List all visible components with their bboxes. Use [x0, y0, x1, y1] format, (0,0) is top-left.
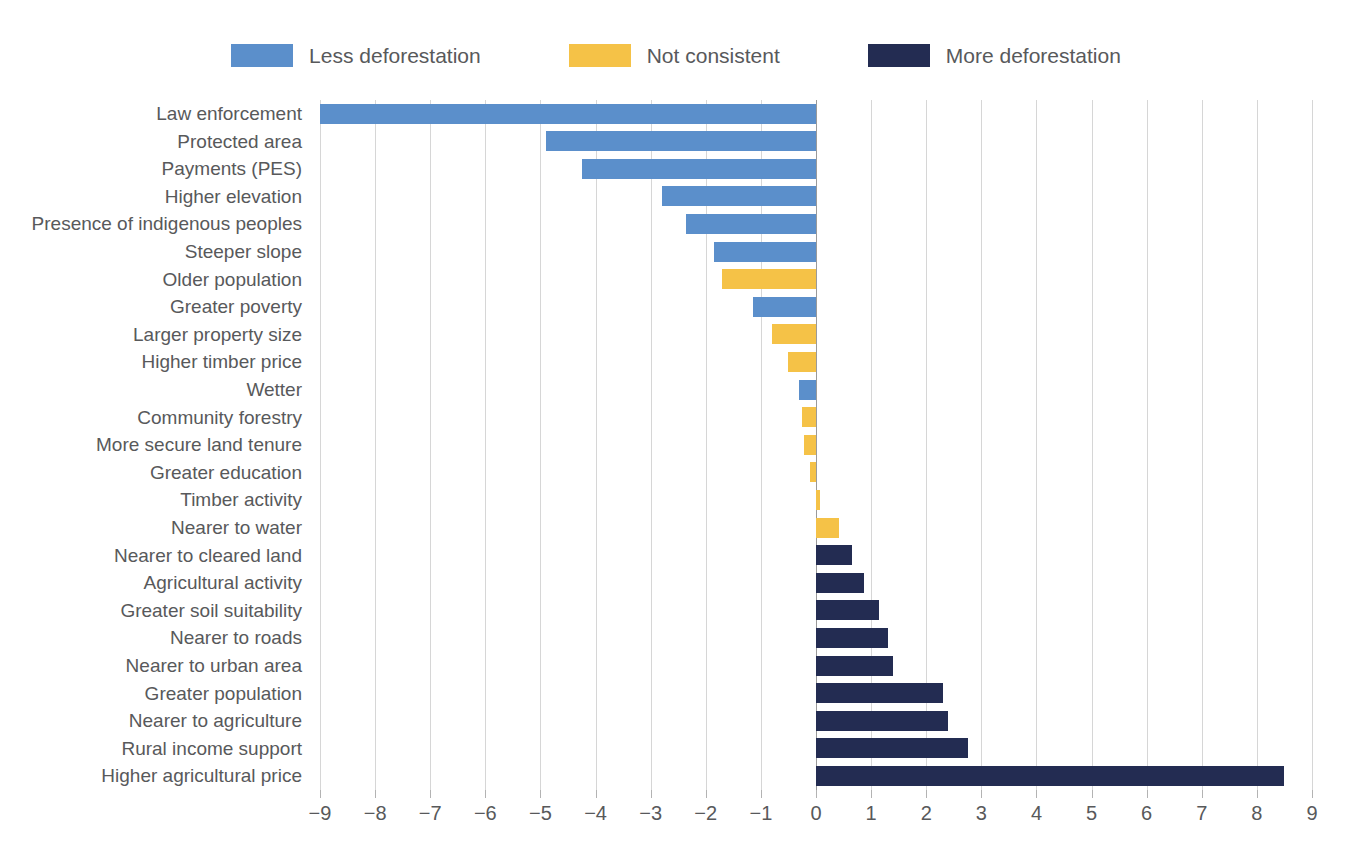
bar[interactable]: [546, 131, 816, 151]
bar-row: [320, 183, 1312, 211]
bar[interactable]: [816, 711, 948, 731]
x-tick-label: 9: [1289, 802, 1335, 825]
y-axis-label: Larger property size: [0, 321, 302, 349]
x-tick-label: −8: [352, 802, 398, 825]
bar-row: [320, 459, 1312, 487]
x-tick-mark: [1147, 790, 1148, 798]
bar[interactable]: [816, 628, 888, 648]
x-tick-label: −7: [407, 802, 453, 825]
bar[interactable]: [714, 242, 816, 262]
bar-row: [320, 624, 1312, 652]
bar[interactable]: [816, 573, 864, 593]
bar-row: [320, 597, 1312, 625]
x-tick-mark: [596, 790, 597, 798]
x-tick-label: 2: [903, 802, 949, 825]
legend-label-more: More deforestation: [946, 44, 1121, 67]
bar-row: [320, 128, 1312, 156]
x-tick-label: −1: [738, 802, 784, 825]
bar-row: [320, 680, 1312, 708]
y-axis-label: Protected area: [0, 128, 302, 156]
legend-swatch-more: [868, 44, 930, 67]
x-tick-label: 0: [793, 802, 839, 825]
bar-row: [320, 404, 1312, 432]
legend-swatch-less: [231, 44, 293, 67]
bar[interactable]: [582, 159, 816, 179]
x-tick-mark: [706, 790, 707, 798]
x-tick-mark: [871, 790, 872, 798]
legend-swatch-notconsistent: [569, 44, 631, 67]
x-tick-mark: [926, 790, 927, 798]
x-tick-label: −2: [683, 802, 729, 825]
y-axis-label: Older population: [0, 266, 302, 294]
chart-legend: Less deforestationNot consistentMore def…: [0, 38, 1352, 72]
x-tick-mark: [1092, 790, 1093, 798]
x-tick-mark: [485, 790, 486, 798]
legend-item-less[interactable]: Less deforestation: [231, 44, 481, 67]
bar[interactable]: [320, 104, 816, 124]
bar-row: [320, 100, 1312, 128]
x-axis: −9−8−7−6−5−4−3−2−10123456789: [320, 790, 1312, 830]
y-axis-label: Nearer to agriculture: [0, 707, 302, 735]
x-tick-label: −3: [628, 802, 674, 825]
bar-row: [320, 266, 1312, 294]
bar[interactable]: [772, 324, 816, 344]
bar[interactable]: [816, 600, 879, 620]
legend-item-notconsistent[interactable]: Not consistent: [569, 44, 780, 67]
legend-item-more[interactable]: More deforestation: [868, 44, 1121, 67]
x-tick-mark: [540, 790, 541, 798]
x-tick-label: 7: [1179, 802, 1225, 825]
y-axis-label: Law enforcement: [0, 100, 302, 128]
x-tick-mark: [981, 790, 982, 798]
x-tick-label: 6: [1124, 802, 1170, 825]
bar[interactable]: [802, 407, 816, 427]
x-tick-label: 5: [1069, 802, 1115, 825]
y-axis-label: Steeper slope: [0, 238, 302, 266]
bar[interactable]: [816, 683, 943, 703]
legend-label-less: Less deforestation: [309, 44, 481, 67]
y-axis-label: Nearer to urban area: [0, 652, 302, 680]
y-axis-label: Timber activity: [0, 486, 302, 514]
bar-row: [320, 735, 1312, 763]
bar[interactable]: [662, 186, 816, 206]
y-axis-label: Agricultural activity: [0, 569, 302, 597]
y-axis-label: Higher agricultural price: [0, 762, 302, 790]
x-tick-label: −5: [517, 802, 563, 825]
x-tick-mark: [816, 790, 817, 798]
bar-row: [320, 486, 1312, 514]
x-tick-mark: [430, 790, 431, 798]
x-tick-mark: [320, 790, 321, 798]
bar[interactable]: [810, 462, 816, 482]
bar[interactable]: [816, 766, 1284, 786]
bar[interactable]: [722, 269, 816, 289]
bar-row: [320, 321, 1312, 349]
bar[interactable]: [816, 545, 852, 565]
y-axis-label: Rural income support: [0, 735, 302, 763]
bar[interactable]: [804, 435, 816, 455]
x-tick-label: 8: [1234, 802, 1280, 825]
x-tick-mark: [651, 790, 652, 798]
bar[interactable]: [753, 297, 816, 317]
bar[interactable]: [816, 490, 820, 510]
x-tick-mark: [1036, 790, 1037, 798]
bar[interactable]: [816, 738, 968, 758]
x-tick-label: −4: [573, 802, 619, 825]
x-tick-label: 3: [958, 802, 1004, 825]
y-axis-label: Wetter: [0, 376, 302, 404]
bar-row: [320, 210, 1312, 238]
bar[interactable]: [686, 214, 816, 234]
y-axis-label: Greater soil suitability: [0, 597, 302, 625]
x-tick-label: 4: [1013, 802, 1059, 825]
y-axis-label: Greater population: [0, 680, 302, 708]
bar[interactable]: [799, 380, 816, 400]
bar-row: [320, 542, 1312, 570]
bar-row: [320, 762, 1312, 790]
bar-row: [320, 431, 1312, 459]
x-tick-mark: [375, 790, 376, 798]
x-tick-mark: [761, 790, 762, 798]
bar[interactable]: [816, 656, 893, 676]
bar-rows: [320, 100, 1312, 790]
bar[interactable]: [788, 352, 816, 372]
bar[interactable]: [816, 518, 839, 538]
y-axis-category-labels: Law enforcementProtected areaPayments (P…: [0, 100, 310, 790]
legend-label-notconsistent: Not consistent: [647, 44, 780, 67]
